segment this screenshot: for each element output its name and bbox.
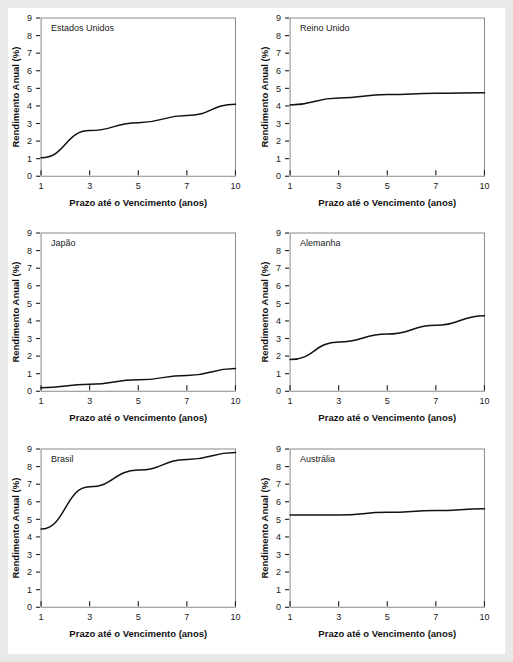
svg-text:4: 4 — [27, 316, 32, 326]
svg-text:1: 1 — [276, 585, 281, 595]
svg-text:10: 10 — [479, 612, 489, 622]
svg-text:9: 9 — [27, 13, 32, 23]
svg-text:Austrália: Austrália — [300, 454, 335, 464]
panel-alemanha: 0123456789135710Prazo até o Vencimento (… — [257, 223, 506, 438]
svg-text:5: 5 — [136, 612, 141, 622]
svg-text:5: 5 — [384, 181, 389, 191]
svg-text:1: 1 — [287, 181, 292, 191]
svg-text:5: 5 — [27, 84, 32, 94]
svg-text:1: 1 — [39, 612, 44, 622]
svg-text:1: 1 — [287, 397, 292, 407]
svg-text:1: 1 — [287, 612, 292, 622]
svg-text:8: 8 — [27, 31, 32, 41]
svg-text:7: 7 — [184, 181, 189, 191]
svg-text:10: 10 — [230, 612, 240, 622]
svg-text:7: 7 — [433, 612, 438, 622]
svg-text:3: 3 — [276, 549, 281, 559]
svg-text:2: 2 — [276, 567, 281, 577]
panel-plot-estados-unidos: 0123456789135710Prazo até o Vencimento (… — [8, 8, 257, 223]
figure-canvas: 0123456789135710Prazo até o Vencimento (… — [8, 8, 505, 654]
svg-text:8: 8 — [27, 461, 32, 471]
svg-text:Prazo até o Vencimento (anos): Prazo até o Vencimento (anos) — [318, 197, 456, 208]
svg-text:2: 2 — [27, 352, 32, 362]
svg-text:7: 7 — [433, 181, 438, 191]
svg-text:3: 3 — [87, 181, 92, 191]
svg-text:7: 7 — [27, 48, 32, 58]
panel-brasil: 0123456789135710Prazo até o Vencimento (… — [8, 439, 257, 654]
svg-text:9: 9 — [276, 229, 281, 239]
svg-text:1: 1 — [39, 397, 44, 407]
svg-text:4: 4 — [276, 101, 281, 111]
svg-text:2: 2 — [27, 136, 32, 146]
svg-text:8: 8 — [276, 246, 281, 256]
svg-text:10: 10 — [479, 397, 489, 407]
svg-text:0: 0 — [276, 602, 281, 612]
svg-text:3: 3 — [87, 397, 92, 407]
svg-text:10: 10 — [479, 181, 489, 191]
panel-japao: 0123456789135710Prazo até o Vencimento (… — [8, 223, 257, 438]
svg-text:6: 6 — [27, 281, 32, 291]
svg-text:Reino Unido: Reino Unido — [300, 23, 350, 33]
svg-text:7: 7 — [184, 612, 189, 622]
svg-text:3: 3 — [336, 181, 341, 191]
svg-text:4: 4 — [27, 532, 32, 542]
svg-text:Prazo até o Vencimento (anos): Prazo até o Vencimento (anos) — [318, 413, 456, 424]
svg-text:8: 8 — [276, 31, 281, 41]
svg-text:Prazo até o Vencimento (anos): Prazo até o Vencimento (anos) — [318, 628, 456, 639]
svg-text:Rendimento Anual (%): Rendimento Anual (%) — [10, 262, 21, 363]
svg-text:8: 8 — [27, 246, 32, 256]
svg-text:9: 9 — [276, 13, 281, 23]
svg-text:0: 0 — [27, 387, 32, 397]
svg-text:Japão: Japão — [51, 238, 76, 248]
svg-text:5: 5 — [276, 84, 281, 94]
panel-plot-brasil: 0123456789135710Prazo até o Vencimento (… — [8, 439, 257, 654]
svg-text:7: 7 — [276, 479, 281, 489]
svg-text:3: 3 — [276, 334, 281, 344]
svg-text:0: 0 — [276, 171, 281, 181]
svg-text:5: 5 — [384, 397, 389, 407]
svg-text:6: 6 — [27, 66, 32, 76]
panel-grid: 0123456789135710Prazo até o Vencimento (… — [8, 8, 505, 654]
svg-text:Estados Unidos: Estados Unidos — [51, 23, 115, 33]
svg-text:1: 1 — [27, 585, 32, 595]
svg-text:6: 6 — [276, 281, 281, 291]
svg-text:5: 5 — [136, 397, 141, 407]
svg-text:7: 7 — [276, 48, 281, 58]
svg-text:5: 5 — [276, 299, 281, 309]
svg-text:8: 8 — [276, 461, 281, 471]
svg-text:3: 3 — [276, 119, 281, 129]
svg-text:5: 5 — [136, 181, 141, 191]
svg-text:3: 3 — [27, 549, 32, 559]
svg-text:Rendimento Anual (%): Rendimento Anual (%) — [259, 477, 270, 578]
svg-text:1: 1 — [276, 369, 281, 379]
svg-text:7: 7 — [184, 397, 189, 407]
svg-text:Rendimento Anual (%): Rendimento Anual (%) — [10, 477, 21, 578]
svg-text:Brasil: Brasil — [51, 454, 74, 464]
svg-text:4: 4 — [27, 101, 32, 111]
svg-text:9: 9 — [27, 229, 32, 239]
panel-reino-unido: 0123456789135710Prazo até o Vencimento (… — [257, 8, 506, 223]
svg-text:Rendimento Anual (%): Rendimento Anual (%) — [259, 47, 270, 148]
svg-text:9: 9 — [276, 444, 281, 454]
svg-text:7: 7 — [27, 479, 32, 489]
svg-text:6: 6 — [27, 497, 32, 507]
svg-text:Prazo até o Vencimento (anos): Prazo até o Vencimento (anos) — [69, 197, 207, 208]
panel-estados-unidos: 0123456789135710Prazo até o Vencimento (… — [8, 8, 257, 223]
svg-text:7: 7 — [27, 264, 32, 274]
svg-text:6: 6 — [276, 497, 281, 507]
svg-text:5: 5 — [27, 514, 32, 524]
svg-text:1: 1 — [27, 154, 32, 164]
svg-text:0: 0 — [27, 602, 32, 612]
panel-plot-japao: 0123456789135710Prazo até o Vencimento (… — [8, 223, 257, 438]
svg-text:4: 4 — [276, 316, 281, 326]
svg-text:Prazo até o Vencimento (anos): Prazo até o Vencimento (anos) — [69, 628, 207, 639]
panel-plot-reino-unido: 0123456789135710Prazo até o Vencimento (… — [257, 8, 506, 223]
svg-text:2: 2 — [27, 567, 32, 577]
panel-plot-alemanha: 0123456789135710Prazo até o Vencimento (… — [257, 223, 506, 438]
panel-plot-australia: 0123456789135710Prazo até o Vencimento (… — [257, 439, 506, 654]
svg-text:7: 7 — [276, 264, 281, 274]
svg-text:4: 4 — [276, 532, 281, 542]
svg-text:3: 3 — [27, 119, 32, 129]
svg-text:3: 3 — [336, 397, 341, 407]
svg-text:1: 1 — [39, 181, 44, 191]
